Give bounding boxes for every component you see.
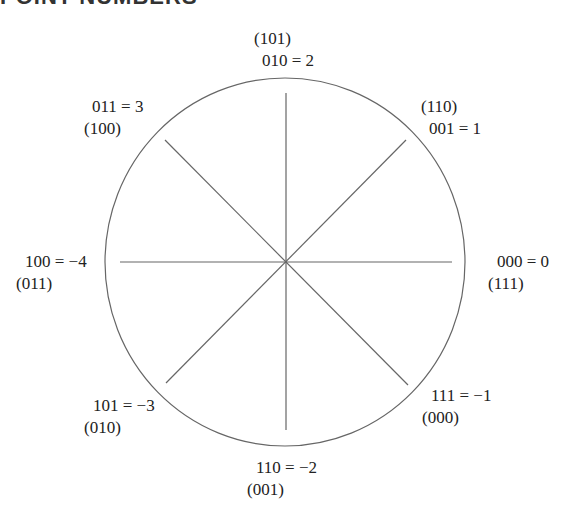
label-bottom-left-value: 101 = −3 bbox=[84, 395, 155, 417]
label-top-right: (110) 001 = 1 bbox=[421, 96, 481, 140]
label-left-complement: (011) bbox=[16, 273, 87, 295]
label-bottom: 110 = −2 (001) bbox=[247, 457, 317, 501]
label-top: (101) 010 = 2 bbox=[254, 28, 314, 72]
label-bottom-right: 111 = −1 (000) bbox=[422, 385, 491, 429]
label-top-left-complement: (100) bbox=[84, 118, 143, 140]
label-top-left: 011 = 3 (100) bbox=[84, 96, 143, 140]
label-bottom-left-complement: (010) bbox=[84, 417, 155, 439]
label-top-complement: (101) bbox=[254, 28, 314, 50]
label-left: 100 = −4 (011) bbox=[16, 251, 87, 295]
label-bottom-complement: (001) bbox=[247, 479, 317, 501]
label-bottom-left: 101 = −3 (010) bbox=[84, 395, 155, 439]
label-bottom-right-value: 111 = −1 bbox=[422, 385, 491, 407]
label-right-value: 000 = 0 bbox=[488, 251, 549, 273]
label-top-left-value: 011 = 3 bbox=[84, 96, 143, 118]
label-top-value: 010 = 2 bbox=[254, 50, 314, 72]
label-bottom-right-complement: (000) bbox=[422, 407, 491, 429]
label-top-right-complement: (110) bbox=[421, 96, 481, 118]
label-bottom-value: 110 = −2 bbox=[247, 457, 317, 479]
label-right-complement: (111) bbox=[488, 273, 549, 295]
label-left-value: 100 = −4 bbox=[16, 251, 87, 273]
label-right: 000 = 0 (111) bbox=[488, 251, 549, 295]
label-top-right-value: 001 = 1 bbox=[421, 118, 481, 140]
